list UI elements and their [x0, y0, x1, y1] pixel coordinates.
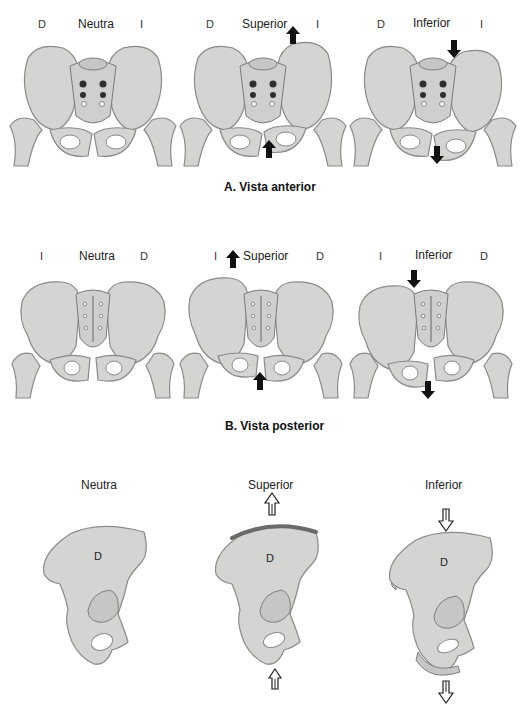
- arrow-down-icon: [421, 381, 435, 399]
- bone-side-label: D: [94, 550, 102, 562]
- panel-title: Inferior: [425, 478, 462, 492]
- side-label-left: D: [377, 18, 385, 30]
- panel-title: Superior: [243, 249, 288, 263]
- arrow-up-icon: [262, 140, 276, 158]
- arrow-down-icon: [407, 270, 421, 288]
- side-label-left: I: [379, 250, 382, 262]
- side-label-left: D: [38, 18, 46, 30]
- side-label-left: I: [40, 250, 43, 262]
- side-label-right: D: [480, 250, 488, 262]
- hollow-arrow-up-icon: [268, 668, 282, 690]
- arrow-up-icon: [286, 26, 300, 44]
- panel-title: Superior: [242, 17, 287, 31]
- hemipelvis-lateral-illustration: D: [40, 524, 150, 674]
- side-label-right: I: [140, 18, 143, 30]
- pelvis-posterior-illustration: [348, 272, 514, 398]
- bone-side-label: D: [440, 556, 448, 568]
- pelvis-anterior-illustration: [8, 38, 178, 166]
- arrow-up-icon: [253, 372, 267, 390]
- panel-title: Neutra: [78, 17, 114, 31]
- panel-title: Neutra: [81, 478, 117, 492]
- panel-title: Superior: [248, 478, 293, 492]
- pelvis-posterior-illustration: [10, 272, 176, 398]
- arrow-down-icon: [447, 40, 461, 58]
- panel-title: Inferior: [415, 248, 452, 262]
- hemipelvis-lateral-illustration: D: [212, 516, 322, 676]
- side-label-right: D: [140, 250, 148, 262]
- caption-anterior-view: A. Vista anterior: [224, 180, 316, 194]
- arrow-up-icon: [226, 250, 240, 268]
- panel-title: Inferior: [413, 16, 450, 30]
- panel-title: Neutra: [79, 249, 115, 263]
- bone-side-label: D: [266, 552, 274, 564]
- side-label-right: I: [316, 18, 319, 30]
- arrow-down-icon: [430, 146, 444, 164]
- side-label-right: D: [316, 250, 324, 262]
- side-label-right: I: [480, 18, 483, 30]
- hemipelvis-lateral-illustration: D: [386, 526, 496, 686]
- hollow-arrow-up-icon: [264, 492, 280, 516]
- side-label-left: I: [214, 250, 217, 262]
- hollow-arrow-down-icon: [438, 680, 454, 704]
- caption-posterior-view: B. Vista posterior: [225, 419, 324, 433]
- side-label-left: D: [206, 18, 214, 30]
